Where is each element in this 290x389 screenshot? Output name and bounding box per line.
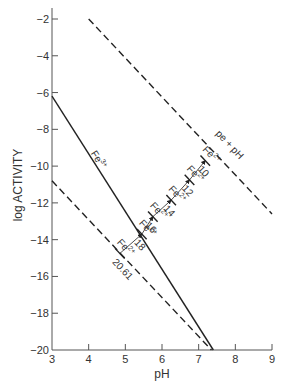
series-line-0 — [52, 96, 213, 350]
axes: −2−4−6−8−10−12−14−16−18−203456789 — [30, 8, 275, 365]
x-tick-label: 3 — [49, 353, 55, 365]
x-tick-label: 9 — [269, 353, 275, 365]
y-tick-label: −14 — [30, 234, 49, 246]
data-series — [52, 19, 272, 350]
y-tick-label: −12 — [30, 197, 49, 209]
y-tick-label: −2 — [36, 13, 49, 25]
eh-ph-activity-chart: −2−4−6−8−10−12−14−16−18−203456789 10Fe2+… — [0, 0, 290, 389]
x-tick-label: 8 — [232, 353, 238, 365]
x-tick-label: 5 — [122, 353, 128, 365]
y-tick-label: −4 — [36, 50, 49, 62]
y-tick-label: −16 — [30, 270, 49, 282]
y-tick-label: −18 — [30, 307, 49, 319]
annotations: Fe3+pe + pH — [89, 128, 246, 171]
pe-ph-value-label: 20.61 — [110, 256, 135, 282]
x-tick-label: 4 — [86, 353, 92, 365]
y-tick-label: −20 — [30, 344, 49, 356]
x-tick-label: 7 — [196, 353, 202, 365]
series-line-2 — [52, 181, 212, 350]
y-tick-label: −8 — [36, 123, 49, 135]
y-axis-label: log ACTIVITY — [11, 149, 25, 222]
y-tick-label: −10 — [30, 160, 49, 172]
x-tick-label: 6 — [159, 353, 165, 365]
y-tick-label: −6 — [36, 87, 49, 99]
x-axis-label: pH — [154, 367, 169, 381]
series-line-1 — [89, 19, 272, 214]
